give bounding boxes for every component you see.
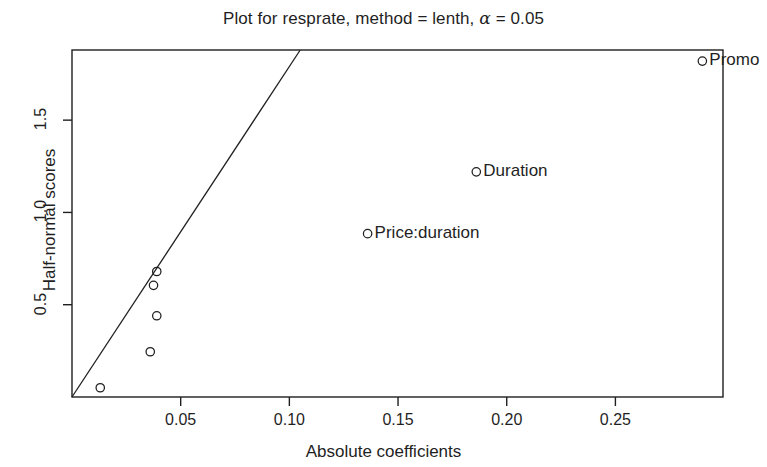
data-point-marker — [146, 348, 154, 356]
x-tick-label: 0.15 — [382, 411, 413, 429]
data-point-marker — [96, 384, 104, 392]
x-tick-label: 0.10 — [274, 411, 305, 429]
data-point-marker — [153, 312, 161, 320]
data-point-label: Promo — [709, 50, 759, 70]
data-point-marker — [363, 229, 371, 237]
data-point-marker — [472, 168, 480, 176]
data-point-label: Duration — [483, 161, 547, 181]
data-point-label: Price:duration — [375, 223, 480, 243]
x-tick-label: 0.25 — [600, 411, 631, 429]
y-axis-label: Half-normal scores — [40, 90, 60, 350]
reference-line-group — [72, 50, 300, 397]
reference-line — [72, 50, 300, 397]
data-point-marker — [149, 281, 157, 289]
x-tick-label: 0.20 — [491, 411, 522, 429]
half-normal-plot-figure: Plot for resprate, method = lenth, α = 0… — [0, 0, 767, 467]
data-point-marker — [698, 57, 706, 65]
x-tick-label: 0.05 — [165, 411, 196, 429]
x-axis-label: Absolute coefficients — [0, 442, 767, 462]
